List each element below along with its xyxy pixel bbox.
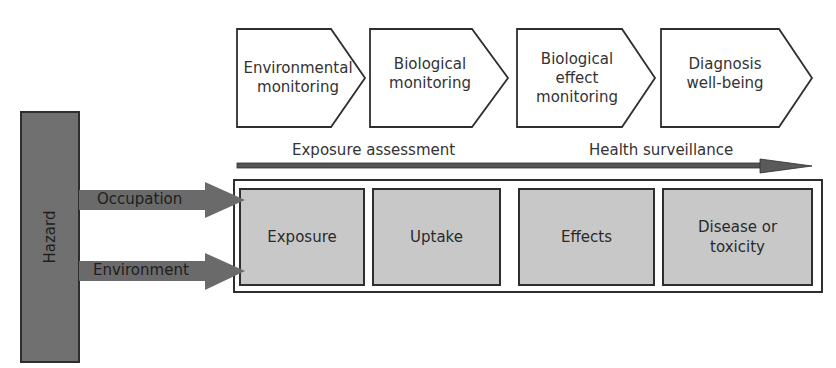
stage-line: Biological: [394, 55, 466, 73]
health-surveillance-label: Health surveillance: [589, 141, 733, 159]
exposure-assessment-label: Exposure assessment: [292, 141, 455, 159]
stage-line: well-being: [686, 74, 763, 92]
stage-biological-monitoring: Biological monitoring: [370, 29, 490, 127]
stage-line: Biological: [541, 50, 613, 68]
stage-line: monitoring: [389, 74, 471, 92]
hazard-label: Hazard: [41, 211, 59, 264]
hazard-bar: Hazard: [20, 111, 80, 363]
stage-line: monitoring: [257, 78, 339, 96]
stage-line: monitoring: [536, 88, 618, 106]
occupation-label: Occupation: [97, 190, 182, 208]
stage-environmental-monitoring: Environmental monitoring: [237, 29, 359, 127]
stage-line: effect: [556, 69, 599, 87]
stage-line: Environmental: [243, 59, 352, 77]
stage-diagnosis-well-being: Diagnosis well-being: [661, 29, 789, 127]
process-box-disease-or-toxicity: Disease or toxicity: [662, 188, 813, 286]
process-label: Effects: [561, 227, 612, 247]
process-label: Disease or: [698, 218, 777, 236]
stage-biological-effect-monitoring: Biological effect monitoring: [517, 29, 637, 127]
timeline-arrow: [237, 159, 812, 173]
process-box-effects: Effects: [518, 188, 655, 286]
environment-label: Environment: [93, 261, 189, 279]
stage-line: Diagnosis: [689, 55, 762, 73]
process-label: toxicity: [710, 238, 765, 256]
process-box-uptake: Uptake: [372, 188, 501, 286]
process-box-exposure: Exposure: [239, 188, 365, 286]
process-label: Exposure: [267, 227, 336, 247]
process-label: Uptake: [410, 227, 463, 247]
